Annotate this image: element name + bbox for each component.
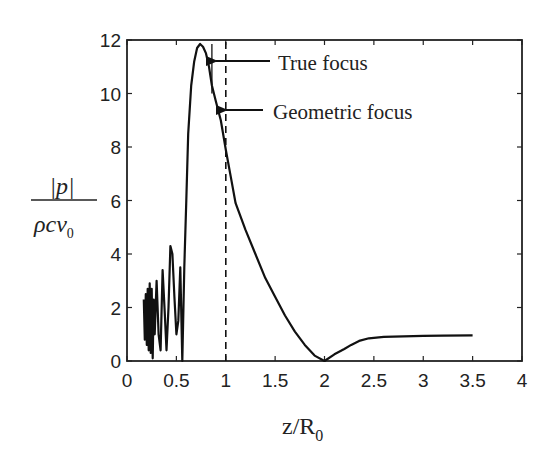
x-tick-label: 2.5	[361, 370, 387, 391]
chart: 00.511.522.533.54024681012 |p| ρcv0 z/R0…	[0, 0, 557, 460]
y-axis-label: |p| ρcv0	[31, 173, 97, 241]
x-tick-label: 1	[220, 370, 231, 391]
y-tick-label: 10	[100, 84, 121, 105]
annotation-true-focus-label: True focus	[278, 51, 368, 75]
annotation-true-focus: True focus	[216, 51, 368, 75]
y-tick-label: 0	[110, 351, 121, 372]
x-tick-label: 1.5	[262, 370, 288, 391]
annotation-geometric-focus-label: Geometric focus	[273, 100, 412, 124]
plot-area: 00.511.522.533.54024681012	[100, 30, 528, 391]
x-tick-label: 0.5	[163, 370, 189, 391]
y-tick-label: 6	[110, 191, 121, 212]
x-tick-label: 3.5	[459, 370, 485, 391]
annotation-geometric-focus: Geometric focus	[226, 100, 412, 124]
pressure-curve	[144, 44, 473, 361]
y-label-numerator: |p|	[49, 173, 74, 199]
x-tick-label: 0	[122, 370, 133, 391]
y-tick-label: 4	[110, 244, 121, 265]
x-axis-label: z/R0	[282, 413, 323, 444]
y-label-denominator: ρcv0	[33, 211, 74, 241]
x-tick-label: 4	[517, 370, 528, 391]
y-tick-label: 12	[100, 30, 121, 51]
y-tick-label: 8	[110, 137, 121, 158]
x-tick-label: 3	[418, 370, 429, 391]
y-tick-label: 2	[110, 298, 121, 319]
x-tick-label: 2	[319, 370, 330, 391]
